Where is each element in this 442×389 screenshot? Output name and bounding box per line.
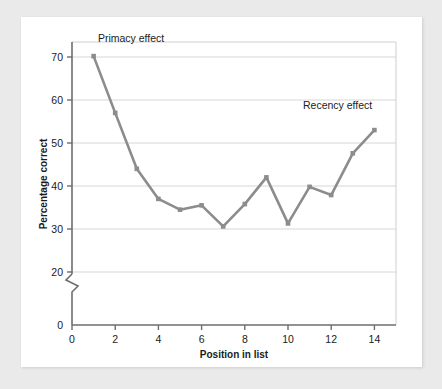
data-point-7 <box>221 224 226 229</box>
y-axis-title: Percentage correct <box>38 138 49 229</box>
plot-frame <box>72 42 396 325</box>
y-tick-label-30: 30 <box>51 223 63 235</box>
y-tick-label-70: 70 <box>51 51 63 63</box>
data-point-3 <box>135 167 140 172</box>
y-axis-tick-labels: 0203040506070 <box>51 51 63 331</box>
x-tick-label-12: 12 <box>325 333 337 345</box>
chart-svg: 0203040506070 02468101214 Primacy effect… <box>0 0 442 389</box>
x-axis-tick-labels: 02468101214 <box>69 333 380 345</box>
data-point-8 <box>243 202 248 207</box>
x-tick-label-2: 2 <box>112 333 118 345</box>
data-point-11 <box>307 185 312 190</box>
data-markers <box>91 54 376 229</box>
data-point-1 <box>91 54 96 59</box>
annotation-primacy: Primacy effect <box>98 32 164 44</box>
data-point-6 <box>199 203 204 208</box>
y-axis <box>66 42 78 325</box>
data-point-9 <box>264 175 269 180</box>
data-point-10 <box>286 221 291 226</box>
data-point-13 <box>351 151 356 156</box>
data-point-4 <box>156 197 161 202</box>
data-point-14 <box>372 128 377 133</box>
y-tick-label-50: 50 <box>51 137 63 149</box>
y-tick-label-60: 60 <box>51 94 63 106</box>
x-tick-label-8: 8 <box>242 333 248 345</box>
x-tick-label-4: 4 <box>155 333 161 345</box>
data-point-2 <box>113 111 118 116</box>
y-tick-label-20: 20 <box>51 266 63 278</box>
y-tick-label-0: 0 <box>57 319 63 331</box>
data-point-12 <box>329 193 334 198</box>
serial-position-chart: 0203040506070 02468101214 Primacy effect… <box>0 0 442 389</box>
data-point-5 <box>178 207 183 212</box>
data-line <box>94 56 375 226</box>
chart-annotations: Primacy effectRecency effect <box>98 32 372 111</box>
x-axis-title: Position in list <box>200 349 269 360</box>
x-tick-label-14: 14 <box>369 333 381 345</box>
x-tick-label-0: 0 <box>69 333 75 345</box>
x-tick-label-10: 10 <box>282 333 294 345</box>
x-tick-label-6: 6 <box>199 333 205 345</box>
y-tick-label-40: 40 <box>51 180 63 192</box>
page-root: 0203040506070 02468101214 Primacy effect… <box>0 0 442 389</box>
annotation-recency: Recency effect <box>303 99 372 111</box>
